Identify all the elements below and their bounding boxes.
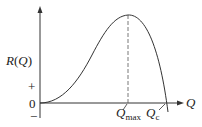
revenue-curve [40, 15, 168, 112]
x-axis-label: Q [186, 96, 195, 109]
y-axis-label: R(Q) [6, 54, 32, 67]
qc-label: Qc [146, 106, 159, 122]
qc-pointer [159, 104, 165, 110]
y-axis-arrow-icon [38, 6, 43, 13]
qmax-label: Qmax [116, 106, 141, 122]
minus-label: − [30, 110, 37, 123]
plus-label: + [28, 80, 35, 93]
x-axis-arrow-icon [177, 101, 184, 106]
